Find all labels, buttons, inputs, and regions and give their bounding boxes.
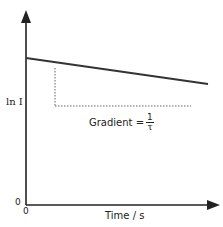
y-axis-arrow-icon xyxy=(21,10,31,23)
x-axis-arrow-icon xyxy=(207,200,220,210)
gradient-denominator: τ xyxy=(147,123,152,132)
y-axis-label: ln I xyxy=(6,96,23,107)
gradient-fraction: 1 τ xyxy=(146,113,154,132)
data-line xyxy=(26,58,208,84)
origin-y-label: 0 xyxy=(15,197,21,207)
gradient-text: Gradient = xyxy=(89,117,144,128)
x-axis-label: Time / s xyxy=(105,210,144,221)
origin-x-label: 0 xyxy=(23,206,29,216)
gradient-annotation: Gradient = 1 τ xyxy=(89,113,154,132)
